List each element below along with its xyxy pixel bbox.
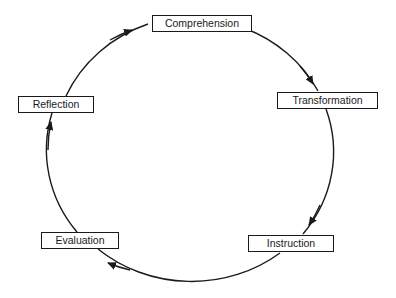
- node-label: Reflection: [33, 98, 80, 110]
- edge-comprehension-to-transformation: [244, 28, 318, 91]
- node-evaluation: Evaluation: [41, 232, 119, 249]
- edge-transformation-to-instruction: [303, 109, 334, 234]
- edge-evaluation-to-reflection: [46, 113, 77, 232]
- node-instruction: Instruction: [248, 235, 334, 252]
- cycle-diagram: [0, 0, 396, 298]
- arrow-comprehension-to-transformation: [300, 66, 313, 84]
- node-label: Comprehension: [165, 17, 239, 29]
- node-label: Evaluation: [55, 234, 104, 246]
- node-reflection: Reflection: [18, 96, 94, 113]
- node-comprehension: Comprehension: [152, 15, 252, 32]
- arrow-transformation-to-instruction: [309, 205, 320, 225]
- edge-reflection-to-comprehension: [66, 24, 148, 96]
- node-transformation: Transformation: [277, 92, 378, 109]
- node-label: Transformation: [292, 94, 362, 106]
- node-label: Instruction: [267, 237, 315, 249]
- arrow-reflection-to-comprehension: [110, 30, 132, 40]
- edge-instruction-to-evaluation: [98, 249, 280, 281]
